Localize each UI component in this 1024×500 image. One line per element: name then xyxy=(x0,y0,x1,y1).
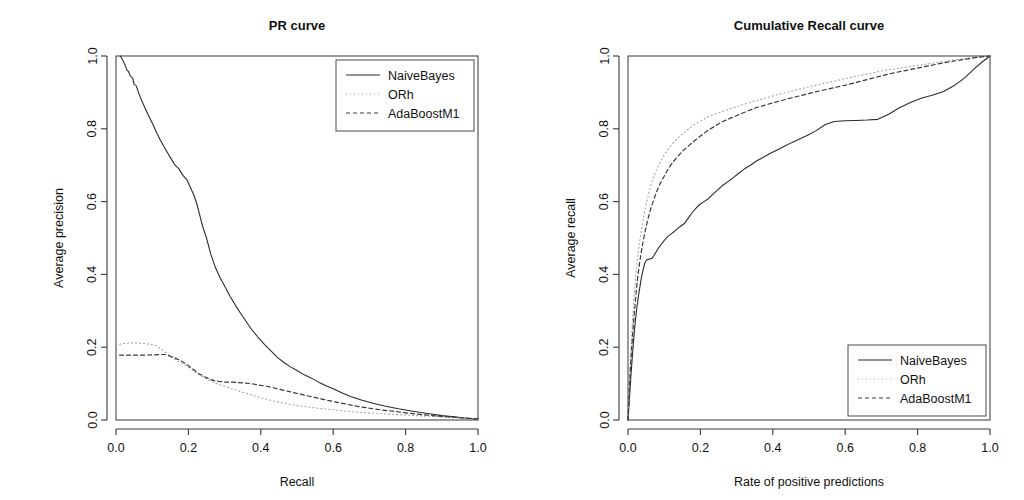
y-tick-label: 1.0 xyxy=(86,47,100,64)
x-tick-label: 0.6 xyxy=(837,441,854,455)
legend-label-adaboostm1: AdaBoostM1 xyxy=(900,392,972,406)
x-axis: 0.00.20.40.60.81.0 xyxy=(619,429,998,455)
chart-panel-cumulative-recall-curve: Cumulative Recall curve0.00.20.40.60.81.… xyxy=(512,0,1024,500)
y-tick-label: 0.0 xyxy=(86,411,100,428)
y-tick-label: 0.2 xyxy=(86,338,100,355)
y-tick-label: 0.6 xyxy=(86,193,100,210)
legend-label-adaboostm1: AdaBoostM1 xyxy=(388,107,460,121)
x-tick-label: 1.0 xyxy=(469,441,486,455)
y-axis-label: Average precision xyxy=(52,188,66,288)
chart-panel-pr-curve: PR curve0.00.20.40.60.81.0Recall0.00.20.… xyxy=(0,0,512,500)
x-tick-label: 1.0 xyxy=(981,441,998,455)
x-tick-label: 0.2 xyxy=(180,441,197,455)
legend-label-naivebayes: NaiveBayes xyxy=(900,354,967,368)
x-tick-label: 0.0 xyxy=(107,441,124,455)
series-line-adaboostm1 xyxy=(120,354,478,418)
legend-label-naivebayes: NaiveBayes xyxy=(388,69,455,83)
x-tick-label: 0.6 xyxy=(325,441,342,455)
x-tick-label: 0.4 xyxy=(764,441,781,455)
legend-label-orh: ORh xyxy=(388,88,414,102)
x-axis: 0.00.20.40.60.81.0 xyxy=(107,429,486,455)
x-axis-label: Rate of positive predictions xyxy=(734,475,884,489)
series-line-orh xyxy=(120,343,478,419)
y-tick-label: 0.4 xyxy=(598,266,612,283)
chart-title: Cumulative Recall curve xyxy=(734,18,884,33)
chart-svg-cumulative-recall-curve: Cumulative Recall curve0.00.20.40.60.81.… xyxy=(512,0,1024,500)
legend-label-orh: ORh xyxy=(900,373,926,387)
y-tick-label: 1.0 xyxy=(598,47,612,64)
y-tick-label: 0.8 xyxy=(86,120,100,137)
y-axis: 0.00.20.40.60.81.0 xyxy=(86,47,108,428)
y-tick-label: 0.2 xyxy=(598,338,612,355)
chart-svg-pr-curve: PR curve0.00.20.40.60.81.0Recall0.00.20.… xyxy=(0,0,512,500)
chart-legend: NaiveBayesORhAdaBoostM1 xyxy=(848,345,986,416)
x-tick-label: 0.8 xyxy=(397,441,414,455)
y-tick-label: 0.8 xyxy=(598,120,612,137)
y-tick-label: 0.6 xyxy=(598,193,612,210)
x-tick-label: 0.4 xyxy=(252,441,269,455)
y-tick-label: 0.0 xyxy=(598,411,612,428)
figure-canvas: PR curve0.00.20.40.60.81.0Recall0.00.20.… xyxy=(0,0,1024,500)
x-tick-label: 0.8 xyxy=(909,441,926,455)
x-axis-label: Recall xyxy=(280,475,315,489)
y-tick-label: 0.4 xyxy=(86,266,100,283)
y-axis-label: Average recall xyxy=(564,198,578,278)
chart-legend: NaiveBayesORhAdaBoostM1 xyxy=(336,60,474,131)
y-axis: 0.00.20.40.60.81.0 xyxy=(598,47,620,428)
chart-title: PR curve xyxy=(269,18,325,33)
x-tick-label: 0.0 xyxy=(619,441,636,455)
x-tick-label: 0.2 xyxy=(692,441,709,455)
